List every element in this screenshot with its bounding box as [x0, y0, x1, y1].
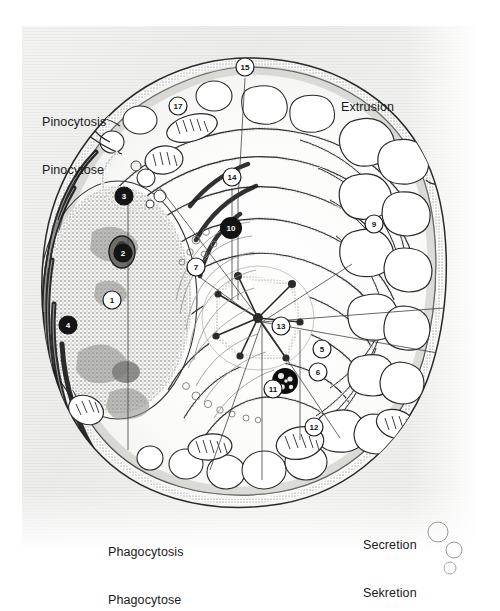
label-phagocytosis-de: Phagocytose: [108, 592, 184, 608]
label-phagocytosis-en: Phagocytosis: [108, 544, 184, 560]
callout-number-9: 9: [372, 220, 377, 229]
callout-number-10: 10: [227, 224, 236, 233]
callout-13: 13: [272, 317, 290, 335]
callout-9: 9: [365, 215, 383, 233]
callout-number-3: 3: [122, 192, 127, 201]
callout-1: 1: [103, 291, 121, 309]
callout-14: 14: [223, 168, 241, 186]
callout-17: 17: [169, 97, 187, 115]
callout-number-13: 13: [277, 322, 286, 331]
callout-6: 6: [309, 363, 327, 381]
callout-3: 3: [115, 187, 133, 205]
callout-number-7: 7: [194, 263, 199, 272]
callout-number-6: 6: [316, 368, 321, 377]
label-extrusion: Extrusion: [341, 70, 394, 145]
callout-number-2: 2: [121, 249, 126, 258]
label-pinocytosis-de: Pinocytose: [42, 162, 106, 178]
label-secretion-en: Secretion: [363, 537, 417, 553]
label-phagocytosis: Phagocytosis Phagocytose: [108, 512, 184, 611]
callout-number-11: 11: [269, 385, 278, 394]
callout-number-4: 4: [66, 321, 71, 330]
callout-12: 12: [305, 418, 323, 436]
callout-number-5: 5: [320, 345, 325, 354]
label-secretion-de: Sekretion: [363, 585, 417, 601]
callout-15: 15: [236, 58, 254, 76]
label-secretion: Secretion Sekretion: [363, 505, 417, 611]
label-pinocytosis: Pinocytosis Pinocytose: [42, 82, 106, 210]
secretion-vesicles: [420, 520, 490, 582]
callout-number-12: 12: [310, 423, 319, 432]
callout-number-1: 1: [110, 296, 115, 305]
callout-11: 11: [264, 380, 282, 398]
callout-5: 5: [313, 340, 331, 358]
callout-number-14: 14: [228, 173, 237, 182]
label-extrusion-en: Extrusion: [341, 100, 394, 115]
label-pinocytosis-en: Pinocytosis: [42, 114, 106, 130]
callout-number-15: 15: [241, 63, 250, 72]
callout-7: 7: [187, 258, 205, 276]
callout-2: 2: [114, 244, 132, 262]
callout-10: 10: [222, 219, 240, 237]
callout-4: 4: [59, 316, 77, 334]
callout-number-17: 17: [174, 102, 183, 111]
